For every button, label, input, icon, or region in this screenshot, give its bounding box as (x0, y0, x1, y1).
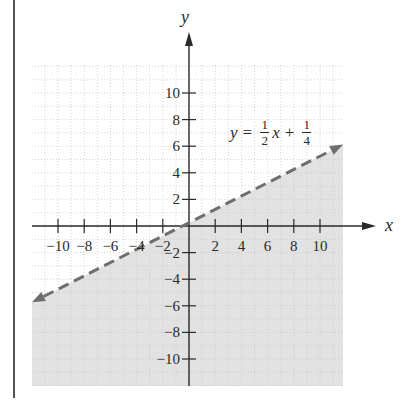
y-axis-label: y (179, 7, 189, 27)
shaded-area (32, 144, 343, 386)
y-tick-label: −6 (164, 298, 180, 314)
equation-variable: x (272, 123, 280, 143)
x-tick-label: 2 (211, 238, 219, 254)
fraction-numerator: 1 (261, 118, 268, 131)
coordinate-plane: −10−8−6−4−2246810108642−2−4−6−8−10 x y (0, 0, 407, 402)
x-axis-arrow-icon (362, 222, 376, 230)
x-tick-label: −6 (102, 238, 118, 254)
y-tick-label: 10 (165, 85, 180, 101)
graph-figure: −10−8−6−4−2246810108642−2−4−6−8−10 x y y… (0, 0, 407, 402)
y-tick-label: 8 (173, 112, 181, 128)
x-tick-label: 10 (313, 238, 328, 254)
y-tick-label: −4 (164, 271, 180, 287)
fraction-one-half: 1 2 (260, 118, 269, 147)
fraction-numerator: 1 (304, 118, 311, 131)
y-tick-label: −10 (157, 351, 180, 367)
fraction-denominator: 2 (261, 134, 268, 147)
y-tick-label: 4 (173, 165, 181, 181)
fraction-denominator: 4 (304, 134, 311, 147)
equation-label: y = 1 2 x + 1 4 (230, 118, 314, 147)
x-tick-label: −8 (76, 238, 92, 254)
equation-equals: = (243, 123, 253, 143)
x-tick-label: 4 (238, 238, 246, 254)
x-tick-label: 8 (290, 238, 298, 254)
x-axis-label: x (384, 215, 393, 235)
y-tick-label: −8 (164, 324, 180, 340)
equation-lhs: y (230, 123, 238, 143)
y-tick-label: 2 (173, 191, 181, 207)
y-tick-label: −2 (164, 245, 180, 261)
x-tick-label: −4 (129, 238, 145, 254)
y-tick-label: 6 (173, 138, 181, 154)
line-arrow-left-icon (32, 292, 46, 302)
fraction-one-quarter: 1 4 (302, 118, 311, 147)
equation-plus: + (285, 123, 295, 143)
y-axis-arrow-icon (185, 32, 193, 46)
x-tick-label: 6 (264, 238, 272, 254)
shaded-region (32, 144, 343, 386)
x-tick-label: −10 (46, 238, 69, 254)
